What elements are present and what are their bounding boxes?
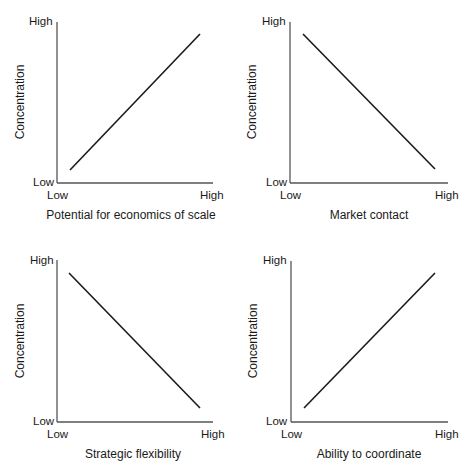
y-axis-label: Concentration [13,62,27,142]
x-tick-high: High [201,428,225,441]
chart-panel-strategic-flexibility: High Low Low High Concentration Strategi… [0,235,236,470]
x-tick-high: High [435,189,459,202]
x-tick-low: Low [280,189,301,202]
chart-panel-ability-to-coordinate: High Low Low High Concentration Ability … [236,235,472,470]
y-tick-low: Low [266,415,287,428]
y-axis-label: Concentration [245,62,259,142]
trend-line [70,34,200,170]
x-tick-low: Low [47,428,68,441]
x-axis-label: Strategic flexibility [0,447,236,461]
y-tick-high: High [29,15,53,28]
y-axis-label: Concentration [246,301,260,381]
y-tick-high: High [262,15,286,28]
y-tick-low: Low [266,176,287,189]
trend-line [304,273,435,408]
x-tick-high: High [435,428,459,441]
x-tick-low: Low [281,428,302,441]
x-tick-low: Low [47,189,68,202]
x-axis-label: Ability to coordinate [236,447,472,461]
trend-line [69,273,200,408]
x-axis-label: Market contact [236,208,472,222]
chart-panel-market-contact: High Low Low High Concentration Market c… [236,0,472,235]
y-tick-low: Low [33,176,54,189]
y-axis-label: Concentration [13,301,27,381]
y-tick-low: Low [33,415,54,428]
trend-line [303,34,435,169]
x-tick-high: High [200,189,224,202]
y-tick-high: High [30,254,54,267]
chart-panel-economies-of-scale: High Low Low High Concentration Potentia… [0,0,236,235]
x-axis-label: Potential for economics of scale [0,208,236,222]
y-tick-high: High [263,254,287,267]
